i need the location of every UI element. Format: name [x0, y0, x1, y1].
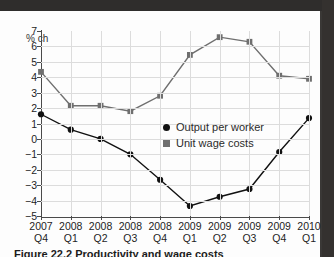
x-axis-year: 2008 [119, 220, 142, 232]
y-axis-tick-label: −1 [25, 148, 37, 160]
x-axis-quarter: Q1 [297, 232, 320, 244]
x-axis-quarter: Q3 [238, 232, 261, 244]
x-axis-tick-label: 2008Q1 [59, 220, 82, 244]
x-axis-line [41, 217, 310, 218]
x-axis-tick-label: 2009Q3 [238, 220, 261, 244]
x-axis-year: 2009 [178, 220, 201, 232]
figure-caption: Figure 22.2 Productivity and wage costs [14, 248, 224, 257]
legend-circle-icon [163, 124, 170, 131]
y-axis-tick [37, 108, 41, 109]
gridline-horizontal [41, 201, 309, 202]
x-axis-quarter: Q2 [89, 232, 112, 244]
x-axis-year: 2008 [89, 220, 112, 232]
x-axis-tick-label: 2008Q3 [119, 220, 142, 244]
x-axis-quarter: Q4 [29, 232, 52, 244]
x-axis-quarter: Q1 [59, 232, 82, 244]
y-axis-tick [37, 201, 41, 202]
legend-item: Unit wage costs [163, 135, 264, 151]
figure-root: % ch 76543210−1−2−3−4−5 2007Q42008Q12008… [0, 0, 334, 257]
legend-item: Output per worker [163, 119, 264, 135]
x-axis-quarter: Q4 [268, 232, 291, 244]
y-axis-tick [37, 154, 41, 155]
y-axis-tick-label: −2 [25, 164, 37, 176]
y-axis-tick [37, 139, 41, 140]
scan-edge-right [322, 0, 334, 257]
x-axis-year: 2008 [148, 220, 171, 232]
y-axis-tick [37, 46, 41, 47]
x-axis-year: 2009 [208, 220, 231, 232]
y-axis-tick-labels: 76543210−1−2−3−4−5 [15, 31, 37, 216]
gridline-horizontal [41, 108, 309, 109]
x-axis-tick-label: 2010Q1 [297, 220, 320, 244]
gridline-horizontal [41, 77, 309, 78]
y-axis-tick [37, 124, 41, 125]
figure-page: % ch 76543210−1−2−3−4−5 2007Q42008Q12008… [0, 11, 322, 257]
x-axis-year: 2010 [297, 220, 320, 232]
y-axis-tick-label: −3 [25, 179, 37, 191]
x-axis-tick-label: 2009Q4 [268, 220, 291, 244]
x-axis-tick-label: 2009Q2 [208, 220, 231, 244]
data-point-square [38, 69, 44, 75]
x-axis-tick-label: 2008Q4 [148, 220, 171, 244]
y-axis-tick [37, 93, 41, 94]
x-axis-quarter: Q3 [119, 232, 142, 244]
gridline-horizontal [41, 170, 309, 171]
gridline-horizontal [41, 185, 309, 186]
gridline-horizontal [41, 93, 309, 94]
x-axis-tick-label: 2008Q2 [89, 220, 112, 244]
gridline-vertical [71, 31, 72, 216]
x-axis-quarter: Q4 [148, 232, 171, 244]
series-line [41, 37, 309, 111]
legend-label: Output per worker [176, 119, 264, 135]
y-axis-tick [37, 170, 41, 171]
gridline-horizontal [41, 62, 309, 63]
data-point-circle [38, 111, 44, 117]
gridline-vertical [101, 31, 102, 216]
legend-label: Unit wage costs [176, 135, 254, 151]
legend-square-icon [163, 140, 170, 147]
y-axis-tick [37, 185, 41, 186]
gridline-horizontal [41, 46, 309, 47]
y-axis-tick [37, 31, 41, 32]
x-axis-tick-label: 2007Q4 [29, 220, 52, 244]
gridline-vertical [279, 31, 280, 216]
x-axis-year: 2009 [268, 220, 291, 232]
x-axis-quarter: Q1 [178, 232, 201, 244]
y-axis-tick [37, 77, 41, 78]
scan-edge-top [0, 0, 334, 11]
x-axis-year: 2007 [29, 220, 52, 232]
y-axis-tick [37, 62, 41, 63]
gridline-vertical [160, 31, 161, 216]
x-axis-tick-labels: 2007Q42008Q12008Q22008Q32008Q42009Q12009… [41, 220, 309, 250]
x-axis-tick-label: 2009Q1 [178, 220, 201, 244]
gridline-vertical [309, 31, 310, 216]
y-axis-tick-label: −4 [25, 195, 37, 207]
x-axis-quarter: Q2 [208, 232, 231, 244]
x-axis-year: 2009 [238, 220, 261, 232]
x-axis-year: 2008 [59, 220, 82, 232]
gridline-horizontal [41, 154, 309, 155]
chart-legend: Output per workerUnit wage costs [163, 119, 264, 151]
gridline-vertical [130, 31, 131, 216]
